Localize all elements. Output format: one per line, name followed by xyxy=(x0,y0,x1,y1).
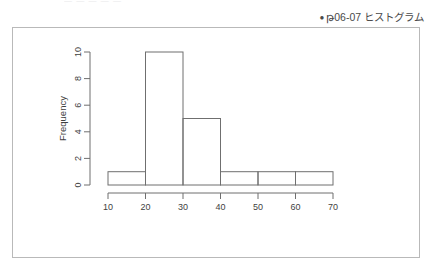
bullet-icon: ● xyxy=(319,11,324,24)
top-cut-text: — — — — — xyxy=(64,0,214,5)
figure-caption-label: թ06-07 ヒストグラム xyxy=(326,11,424,24)
figure-caption: ● թ06-07 ヒストグラム xyxy=(319,11,424,24)
figure-frame xyxy=(12,27,420,258)
